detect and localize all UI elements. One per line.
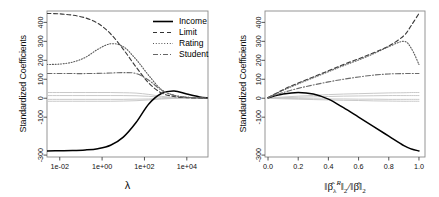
x-tick-label: 1e+04 (177, 162, 197, 171)
y-tick-label: 0 (36, 96, 45, 100)
x-tick-label: 0.4 (323, 162, 333, 171)
y-tick-label: -300 (36, 148, 45, 162)
legend-key-dashdot (152, 49, 174, 60)
legend-key-solid (152, 16, 174, 27)
plot-panel-norm-ratio: Standardized Coefficients ‖β̂λR‖2/‖β̂‖2 … (220, 0, 439, 197)
y-tick-label: 200 (254, 54, 263, 66)
y-tick-label: 400 (36, 16, 45, 28)
x-tick-label: 1.0 (414, 162, 424, 171)
legend-item-student: Student (152, 49, 208, 60)
y-tick-label: 100 (254, 73, 263, 85)
x-tick-label: 0.8 (384, 162, 394, 171)
series-line-student (47, 73, 208, 98)
y-tick-label: -100 (254, 110, 263, 124)
x-tick-label: 1e+00 (92, 162, 112, 171)
x-tick-label: 1e-02 (51, 162, 69, 171)
legend-label-student: Student (179, 49, 208, 60)
legend-item-limit: Limit (152, 27, 208, 38)
y-tick-label: 400 (254, 16, 263, 28)
plot-area-right: 0.00.20.40.60.81.0-300-1000100200300400 (220, 0, 439, 197)
legend-label-income: Income (179, 16, 207, 27)
legend-item-rating: Rating (152, 38, 208, 49)
series-line-limit (268, 13, 419, 97)
legend-key-dashed (152, 27, 174, 38)
legend-key-dotted (152, 38, 174, 49)
series-line-rating (268, 41, 419, 97)
x-tick-label: 1e+02 (134, 162, 154, 171)
legend-label-rating: Rating (179, 38, 204, 49)
x-tick-label: 0.6 (354, 162, 364, 171)
legend: Income Limit Rating Student (152, 16, 208, 60)
y-tick-label: 300 (254, 35, 263, 47)
legend-item-income: Income (152, 16, 208, 27)
y-tick-label: 0 (254, 96, 263, 100)
legend-label-limit: Limit (179, 27, 197, 38)
x-tick-label: 0.2 (293, 162, 303, 171)
y-tick-label: 300 (36, 35, 45, 47)
plot-panel-lambda: Standardized Coefficients λ 1e-021e+001e… (0, 0, 220, 197)
y-tick-label: 200 (36, 54, 45, 66)
ridge-regression-figure: Standardized Coefficients λ 1e-021e+001e… (0, 0, 439, 197)
series-line-income (47, 91, 208, 151)
y-tick-label: 100 (36, 73, 45, 85)
x-tick-label: 0.0 (263, 162, 273, 171)
y-tick-label: -300 (254, 148, 263, 162)
y-tick-label: -100 (36, 110, 45, 124)
